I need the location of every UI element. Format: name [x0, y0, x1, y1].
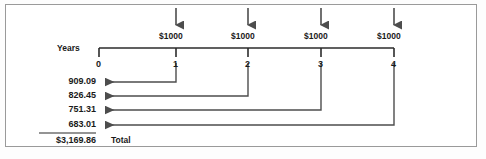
total-label: Total: [111, 136, 131, 145]
discount-path-year-3: [105, 63, 321, 110]
year-tick-label-4: 4: [391, 60, 396, 69]
year-tick-label-3: 3: [318, 60, 323, 69]
time-value-of-money-diagram: $1000 $1000 $1000 $1000 Years 0 1 2 3 4 …: [0, 0, 486, 159]
present-value-year-2: 826.45: [20, 91, 96, 100]
present-value-year-3: 751.31: [20, 105, 96, 114]
year-tick-label-2: 2: [245, 60, 250, 69]
timeline-axis: [99, 48, 394, 57]
discount-path-year-1: [105, 63, 176, 82]
cash-inflow-label-year-4: $1000: [377, 32, 401, 41]
present-value-year-1: 909.09: [20, 77, 96, 86]
cash-inflow-label-year-1: $1000: [159, 32, 183, 41]
year-tick-label-1: 1: [173, 60, 178, 69]
cash-inflow-label-year-2: $1000: [231, 32, 255, 41]
years-axis-label: Years: [57, 44, 80, 53]
year-tick-label-0: 0: [96, 60, 101, 69]
present-value-year-4: 683.01: [20, 120, 96, 129]
cash-inflow-label-year-3: $1000: [304, 32, 328, 41]
discount-path-year-4: [105, 63, 394, 125]
total-value: $3,169.86: [14, 136, 96, 145]
